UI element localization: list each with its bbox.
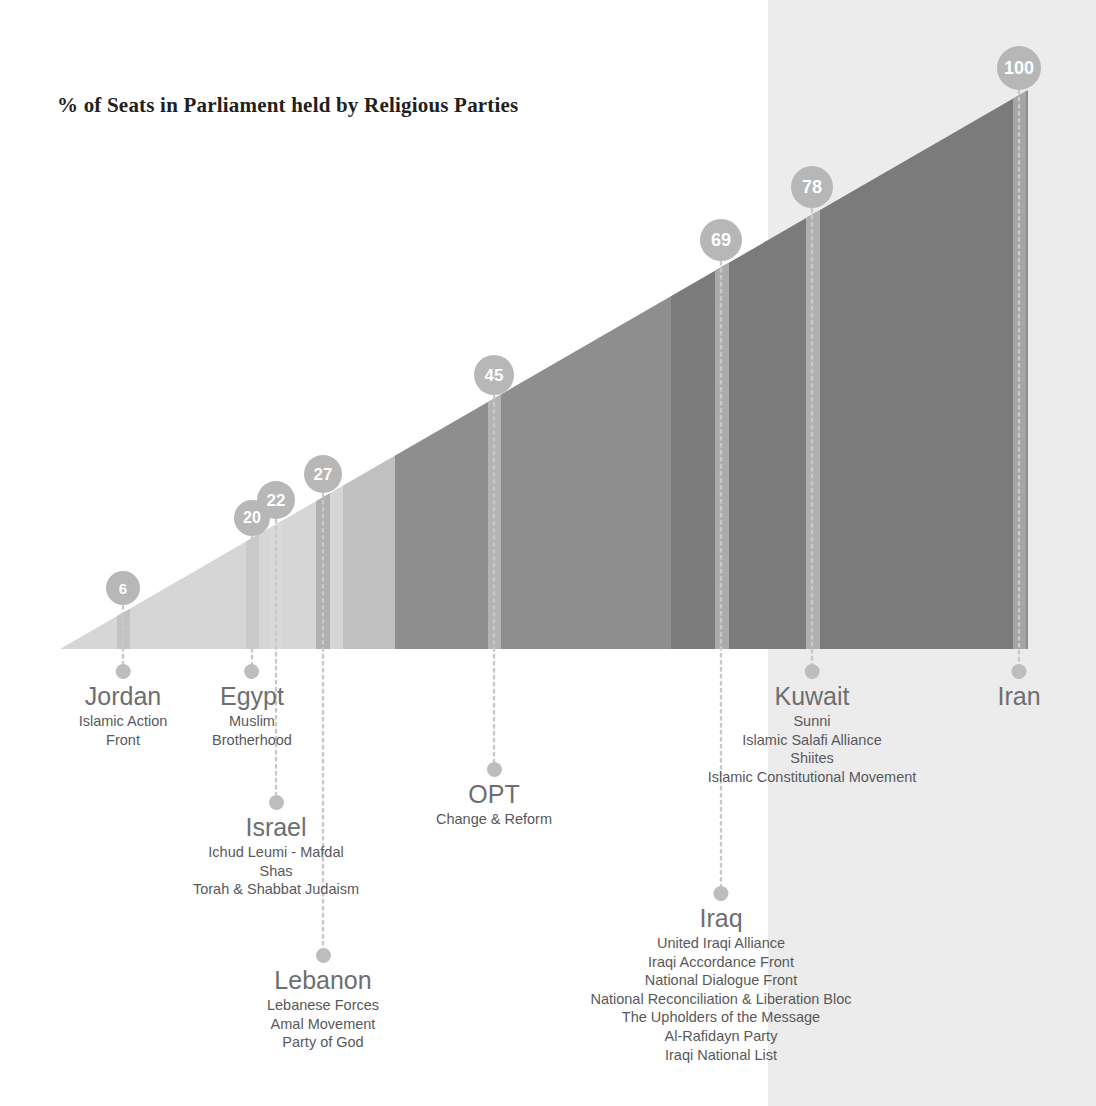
country-name-israel: Israel [193, 814, 359, 840]
party-name: Lebanese Forces [267, 996, 379, 1015]
value-badge-opt: 45 [474, 355, 514, 395]
party-name: The Upholders of the Message [590, 1008, 851, 1027]
party-name: National Dialogue Front [590, 971, 851, 990]
party-name: Muslim [212, 712, 292, 731]
country-label-lebanon: LebanonLebanese ForcesAmal MovementParty… [267, 948, 379, 1052]
party-name: Ichud Leumi - Mafdal [193, 843, 359, 862]
country-name-iraq: Iraq [590, 905, 851, 931]
infographic-canvas: % of Seats in Parliament held by Religio… [0, 0, 1096, 1106]
value-badge-jordan: 6 [106, 571, 140, 605]
label-dot-kuwait-icon [804, 664, 819, 679]
party-name: Iraqi Accordance Front [590, 953, 851, 972]
value-badge-iraq: 69 [700, 219, 742, 261]
party-name: Islamic Constitutional Movement [708, 768, 917, 787]
party-name: Islamic Action [79, 712, 168, 731]
label-dot-lebanon-icon [315, 948, 330, 963]
party-name: United Iraqi Alliance [590, 934, 851, 953]
label-dot-egypt-icon [245, 664, 260, 679]
country-name-opt: OPT [436, 781, 552, 807]
party-name: Shiites [708, 749, 917, 768]
country-label-jordan: JordanIslamic ActionFront [79, 664, 168, 749]
country-name-lebanon: Lebanon [267, 967, 379, 993]
label-dot-iran-icon [1012, 664, 1027, 679]
party-name: Shas [193, 862, 359, 881]
country-label-israel: IsraelIchud Leumi - MafdalShasTorah & Sh… [193, 795, 359, 899]
wedge-body [58, 80, 1033, 652]
party-name: Al-Rafidayn Party [590, 1027, 851, 1046]
value-badge-lebanon: 27 [304, 455, 342, 493]
country-label-opt: OPTChange & Reform [436, 762, 552, 829]
party-name: Iraqi National List [590, 1046, 851, 1065]
wedge-chart [0, 0, 1096, 1106]
country-label-iran: Iran [997, 664, 1040, 712]
country-label-iraq: IraqUnited Iraqi AllianceIraqi Accordanc… [590, 886, 851, 1064]
country-name-kuwait: Kuwait [708, 683, 917, 709]
party-name: National Reconciliation & Liberation Blo… [590, 990, 851, 1009]
label-dot-opt-icon [487, 762, 502, 777]
value-badge-iran: 100 [997, 46, 1041, 90]
party-name: Party of God [267, 1033, 379, 1052]
party-name: Islamic Salafi Alliance [708, 731, 917, 750]
country-name-egypt: Egypt [212, 683, 292, 709]
country-name-jordan: Jordan [79, 683, 168, 709]
value-badge-israel: 22 [257, 481, 295, 519]
label-dot-jordan-icon [116, 664, 131, 679]
party-name: Brotherhood [212, 731, 292, 750]
party-name: Front [79, 731, 168, 750]
label-dot-iraq-icon [714, 886, 729, 901]
country-label-egypt: EgyptMuslimBrotherhood [212, 664, 292, 749]
party-name: Amal Movement [267, 1015, 379, 1034]
value-badge-kuwait: 78 [791, 166, 833, 208]
party-name: Torah & Shabbat Judaism [193, 880, 359, 899]
label-dot-israel-icon [268, 795, 283, 810]
country-label-kuwait: KuwaitSunniIslamic Salafi AllianceShiite… [708, 664, 917, 786]
party-name: Change & Reform [436, 810, 552, 829]
page-title: % of Seats in Parliament held by Religio… [57, 93, 518, 118]
country-name-iran: Iran [997, 683, 1040, 709]
party-name: Sunni [708, 712, 917, 731]
